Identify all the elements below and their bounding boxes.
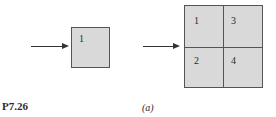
grid-divider-horizontal [185,47,262,48]
arrow-left [31,46,67,47]
single-cell-box: 1 [71,27,110,68]
figure-caption: (a) [142,102,154,113]
four-cell-grid: 1 3 2 4 [184,5,263,88]
cell-label-4: 4 [231,55,236,66]
arrowhead-icon [62,43,69,49]
cell-label-2: 2 [194,55,199,66]
cell-label-1: 1 [79,33,84,44]
arrowhead-icon [173,43,180,49]
problem-label: P7.26 [2,100,28,112]
cell-label-3: 3 [231,15,236,26]
cell-label-1: 1 [194,15,199,26]
arrow-right [143,46,178,47]
